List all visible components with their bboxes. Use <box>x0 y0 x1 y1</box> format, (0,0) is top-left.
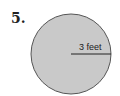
circle-diagram: 3 feet <box>0 0 120 96</box>
radius-label: 3 feet <box>79 42 102 52</box>
